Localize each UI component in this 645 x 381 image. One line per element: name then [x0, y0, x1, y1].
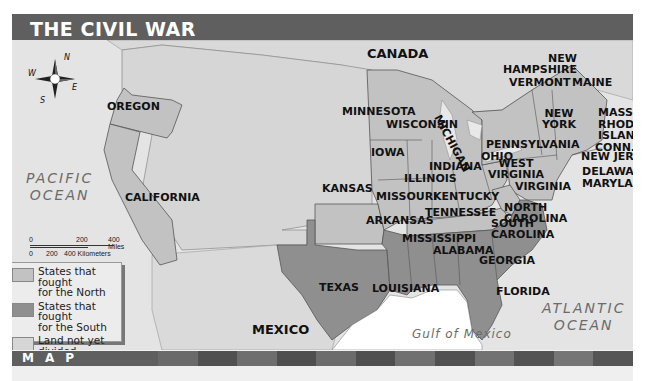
- label-atlantic-ocean: ATLANTIC OCEAN: [542, 300, 625, 334]
- label-pacific-ocean: PACIFIC OCEAN: [26, 170, 93, 204]
- label-georgia: GEORGIA: [479, 255, 535, 266]
- legend-item-territory: Land not yet divided into states: [12, 335, 121, 350]
- label-minnesota: MINNESOTA: [342, 106, 415, 117]
- label-pennsylvania: PENNSYLVANIA: [486, 139, 579, 150]
- map-area: N W E S CANADA MEXICO PACIFIC OCEAN ATLA…: [12, 40, 633, 350]
- label-louisiana: LOUISIANA: [372, 283, 439, 294]
- label-indiana: INDIANA: [429, 161, 482, 172]
- map-work-bar: MAP WORK: [12, 351, 633, 366]
- compass-rose: N W E S: [30, 54, 80, 104]
- label-virginia: VIRGINIA: [515, 181, 571, 192]
- label-mississippi: MISSISSIPPI: [402, 233, 476, 244]
- label-arkansas: ARKANSAS: [366, 215, 434, 226]
- map-work-label: MAP WORK: [12, 351, 158, 366]
- compass-south: S: [40, 95, 45, 106]
- legend-swatch-south: [12, 303, 34, 317]
- legend-swatch-north: [12, 268, 34, 282]
- label-florida: FLORIDA: [496, 286, 550, 297]
- label-mexico: MEXICO: [252, 324, 309, 335]
- label-vermont: VERMONT: [509, 77, 571, 88]
- compass-west: W: [28, 68, 36, 79]
- label-canada: CANADA: [367, 48, 428, 59]
- title-bar: THE CIVIL WAR: [12, 14, 633, 40]
- scale-bar: 0 200 400 Miles 0 200 400 Kilometers: [26, 236, 136, 262]
- label-rhode-island: RHODE ISLAND: [598, 119, 633, 141]
- label-california: CALIFORNIA: [125, 192, 200, 203]
- label-new-hampshire: NEW HAMPSHIRE: [503, 53, 577, 75]
- label-mass: MASS.: [598, 107, 633, 118]
- label-texas: TEXAS: [319, 282, 359, 293]
- label-gulf-of-mexico: Gulf of Mexico: [412, 326, 512, 343]
- legend: States that fought for the North States …: [12, 262, 122, 342]
- compass-east: E: [72, 82, 77, 93]
- label-missouri: MISSOURI: [376, 191, 437, 202]
- compass-star-icon: [30, 54, 80, 104]
- label-delaware: DELAWARE: [582, 166, 633, 177]
- label-west-virginia: WEST VIRGINIA: [488, 158, 544, 180]
- label-maryland: MARYLAND: [582, 178, 633, 189]
- label-illinois: ILLINOIS: [404, 173, 457, 184]
- label-new-york: NEW YORK: [542, 108, 576, 130]
- label-north-carolina: NORTH CAROLINA: [504, 202, 567, 224]
- legend-swatch-territory: [12, 337, 34, 350]
- compass-north: N: [64, 52, 70, 63]
- label-kansas: KANSAS: [322, 183, 373, 194]
- bottom-strip: [12, 366, 633, 381]
- label-new-jersey: NEW JERSEY: [581, 151, 633, 162]
- legend-item-south: States that fought for the South: [12, 301, 121, 333]
- label-kentucky: KENTUCKY: [433, 191, 499, 202]
- label-tennessee: TENNESSEE: [425, 207, 496, 218]
- page-title: THE CIVIL WAR: [30, 18, 196, 40]
- label-maine: MAINE: [572, 77, 612, 88]
- label-iowa: IOWA: [371, 147, 405, 158]
- legend-item-north: States that fought for the North: [12, 266, 121, 298]
- label-oregon: OREGON: [107, 101, 160, 112]
